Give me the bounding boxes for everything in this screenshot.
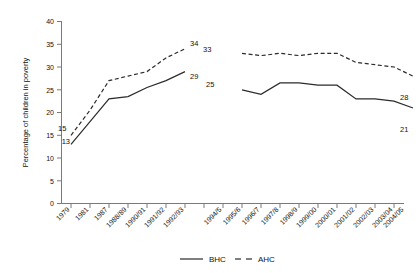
x-tick-labels: 1979 1981 1987 1988/89 1990/91 1991/92 1… xyxy=(55,206,405,229)
x-axis xyxy=(62,204,405,209)
series-line-ahc-segment-1 xyxy=(71,49,185,136)
legend-label-bhc: BHC xyxy=(209,255,226,264)
annotation-ahc-start2: 33 xyxy=(203,45,211,54)
series-line-ahc-segment-2 xyxy=(242,53,413,76)
y-tick-label: 40 xyxy=(46,18,54,25)
series-line-bhc-segment-1 xyxy=(71,72,185,145)
x-tick-label: 1979 xyxy=(55,206,71,222)
x-tick-label: 1994/5 xyxy=(203,206,223,226)
y-tick-label: 15 xyxy=(46,132,54,139)
annotation-bhc-end2: 21 xyxy=(400,125,408,134)
x-tick-label: 1997/8 xyxy=(260,206,280,226)
annotation-bhc-end1: 29 xyxy=(190,72,198,81)
data-series-group xyxy=(71,49,413,145)
x-tick-label: 1981 xyxy=(74,206,90,222)
chart-canvas: 40 35 30 25 20 15 10 5 0 Percentage of c… xyxy=(0,0,418,273)
annotation-bhc-start2: 25 xyxy=(206,80,214,89)
annotation-bhc-start: 13 xyxy=(62,137,70,146)
x-tick-label: 1995/6 xyxy=(222,206,242,226)
annotation-ahc-start: 15 xyxy=(58,124,66,133)
x-tick-label: 1996/7 xyxy=(241,206,261,226)
x-tick-label: 1987 xyxy=(93,206,109,222)
y-axis xyxy=(57,21,62,204)
y-tick-labels: 40 35 30 25 20 15 10 5 0 xyxy=(46,18,54,207)
y-tick-label: 20 xyxy=(46,109,54,116)
y-tick-label: 30 xyxy=(46,64,54,71)
annotation-ahc-end1: 34 xyxy=(190,39,198,48)
y-tick-label: 0 xyxy=(50,200,54,207)
annotation-ahc-end2: 28 xyxy=(400,93,408,102)
y-axis-title: Percentage of children in poverty xyxy=(21,57,30,167)
poverty-line-chart: 40 35 30 25 20 15 10 5 0 Percentage of c… xyxy=(0,0,418,273)
chart-legend: BHC AHC xyxy=(180,255,275,264)
point-annotations: 13 15 29 34 25 33 21 28 xyxy=(58,39,408,146)
y-tick-label: 25 xyxy=(46,87,54,94)
y-tick-label: 10 xyxy=(46,155,54,162)
y-tick-label: 5 xyxy=(50,178,54,185)
legend-label-ahc: AHC xyxy=(258,255,275,264)
y-tick-label: 35 xyxy=(46,41,54,48)
series-line-bhc-segment-2 xyxy=(242,83,413,108)
x-tick-label: 1992/93 xyxy=(162,206,185,229)
